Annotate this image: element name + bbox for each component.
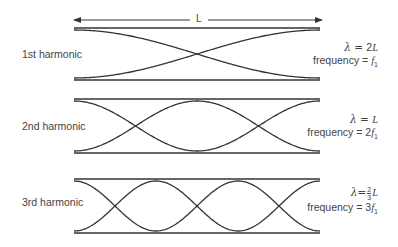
harmonic-equations-1: λ = 2L frequency = f1 xyxy=(313,41,378,71)
frequency-equation-2: frequency = 2f1 xyxy=(307,126,378,143)
harmonic-equations-3: λ=23L frequency = 3f1 xyxy=(307,186,378,218)
frequency-equation-1: frequency = f1 xyxy=(313,54,378,71)
wavelength-equation-1: λ = 2L xyxy=(313,41,378,54)
harmonic-label-2: 2nd harmonic xyxy=(22,120,86,132)
wavelength-equation-3: λ=23L xyxy=(307,186,378,201)
frequency-equation-3: frequency = 3f1 xyxy=(307,201,378,218)
harmonic-equations-2: λ = L frequency = 2f1 xyxy=(307,113,378,143)
wavelength-equation-2: λ = L xyxy=(307,113,378,126)
wave-envelope-1-b xyxy=(74,30,320,78)
length-label: L xyxy=(193,13,205,24)
harmonic-label-1: 1st harmonic xyxy=(22,48,82,60)
wave-envelope-2-a xyxy=(74,101,320,151)
wave-envelope-3-b xyxy=(74,181,320,231)
wave-envelope-2-b xyxy=(74,101,320,151)
fraction-two-thirds: 23 xyxy=(367,186,371,201)
harmonic-label-3: 3rd harmonic xyxy=(22,196,83,208)
